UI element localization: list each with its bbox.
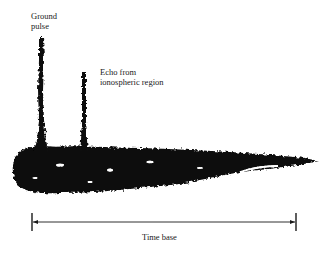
echo-label: Echo from ionospheric region [100,67,164,87]
arrowhead-right-icon [290,220,295,224]
ground-pulse-label-line1: Ground [31,11,57,21]
ground-pulse-label-line2: pulse [31,21,57,31]
ionosonde-trace-diagram [0,0,330,253]
echo-label-line1: Echo from [100,67,164,77]
noise-band [13,146,318,193]
echo-pulse [80,72,88,152]
arrowhead-left-icon [33,220,38,224]
echo-label-line2: ionospheric region [100,77,164,87]
ground-pulse-label: Ground pulse [31,11,57,31]
time-base-label: Time base [142,232,177,242]
time-base-arrow [32,213,296,231]
ground-pulse [34,37,48,152]
